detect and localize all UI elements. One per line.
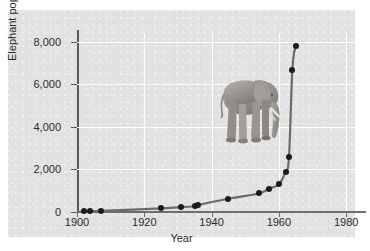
series-line: [84, 46, 296, 211]
data-point: [283, 169, 289, 175]
x-axis-tick-label: 1940: [199, 216, 223, 228]
y-axis-title: Elephant population: [6, 0, 18, 61]
population-curve: [77, 33, 363, 212]
y-axis-tick-label: 2,000: [33, 163, 61, 175]
data-point: [293, 43, 299, 49]
x-axis-tick-label: 1920: [132, 216, 156, 228]
plot-area: 02,0004,0006,0008,000 190019201940196019…: [77, 33, 363, 212]
chart-figure: Elephant population Year 02,0004,0006,00…: [8, 10, 355, 237]
y-axis-tick-label: 8,000: [33, 36, 61, 48]
x-axis-title: Year: [8, 232, 355, 244]
data-point: [286, 154, 292, 160]
data-point: [81, 208, 87, 214]
data-point: [87, 208, 93, 214]
data-point: [266, 186, 272, 192]
x-axis-tick-label: 1960: [267, 216, 291, 228]
data-point: [195, 202, 201, 208]
y-axis-tick-label: 4,000: [33, 121, 61, 133]
data-point: [256, 190, 262, 196]
x-axis-tick-label: 1980: [334, 216, 358, 228]
y-axis-tick-label: 6,000: [33, 78, 61, 90]
x-axis-tick-label: 1900: [65, 216, 89, 228]
data-point: [98, 208, 104, 214]
data-point: [178, 204, 184, 210]
data-point: [225, 196, 231, 202]
data-point: [289, 67, 295, 73]
y-axis-tick-label: 0: [55, 206, 61, 218]
data-point: [158, 205, 164, 211]
data-point: [276, 181, 282, 187]
